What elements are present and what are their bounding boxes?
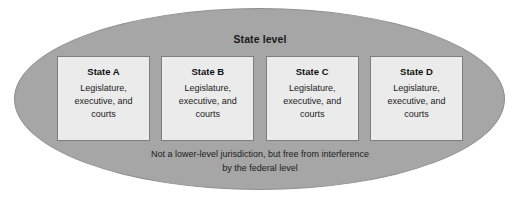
state-box-c: State C Legislature, executive, and cour… [266, 56, 359, 141]
state-box-a-name: State A [87, 66, 119, 78]
state-box-d-name: State D [400, 66, 433, 78]
state-level-diagram: State level State A Legislature, executi… [0, 0, 520, 198]
state-box-c-description: Legislature, executive, and courts [267, 82, 358, 121]
state-box-b: State B Legislature, executive, and cour… [161, 56, 254, 141]
diagram-caption-line-2: by the federal level [60, 161, 460, 175]
state-box-c-name: State C [296, 66, 329, 78]
state-box-b-description: Legislature, executive, and courts [162, 82, 253, 121]
state-box-a-description: Legislature, executive, and courts [58, 82, 149, 121]
state-level-title: State level [0, 33, 520, 45]
state-box-d-description: Legislature, executive, and courts [371, 82, 462, 121]
state-boxes-row: State A Legislature, executive, and cour… [57, 56, 463, 141]
diagram-caption-line-1: Not a lower-level jurisdiction, but free… [60, 147, 460, 161]
state-box-b-name: State B [191, 66, 224, 78]
diagram-caption: Not a lower-level jurisdiction, but free… [60, 147, 460, 175]
state-box-a: State A Legislature, executive, and cour… [57, 56, 150, 141]
state-box-d: State D Legislature, executive, and cour… [370, 56, 463, 141]
